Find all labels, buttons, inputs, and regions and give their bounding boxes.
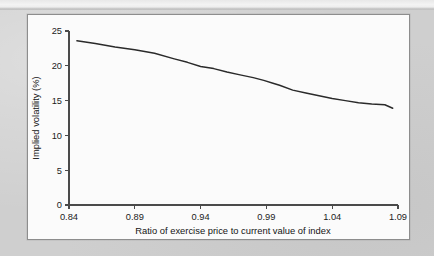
implied-volatility-line <box>77 41 393 109</box>
y-tick-label: 20 <box>52 61 62 71</box>
y-tick-label: 5 <box>57 166 62 176</box>
y-axis-ticks: 0510152025 <box>52 26 69 210</box>
y-axis: 0510152025 Implied volatility (%) <box>30 26 69 210</box>
x-tick-label: 0.84 <box>60 212 78 222</box>
y-axis-title: Implied volatility (%) <box>30 76 41 159</box>
scan-top-band <box>0 0 434 10</box>
y-tick-label: 15 <box>52 96 62 106</box>
x-tick-label: 0.94 <box>192 212 210 222</box>
x-axis-ticks: 0.840.890.940.991.041.09 <box>60 205 407 222</box>
x-axis: 0.840.890.940.991.041.09 Ratio of exerci… <box>60 205 407 236</box>
y-tick-label: 0 <box>57 200 62 210</box>
figure-panel: 0510152025 Implied volatility (%) 0.840.… <box>27 14 410 240</box>
y-tick-label: 25 <box>52 26 62 36</box>
y-tick-label: 10 <box>52 131 62 141</box>
implied-volatility-chart: 0510152025 Implied volatility (%) 0.840.… <box>28 15 409 239</box>
x-axis-title: Ratio of exercise price to current value… <box>135 225 331 236</box>
x-tick-label: 1.09 <box>389 212 407 222</box>
x-tick-label: 1.04 <box>323 212 341 222</box>
x-tick-label: 0.89 <box>126 212 144 222</box>
x-tick-label: 0.99 <box>257 212 275 222</box>
